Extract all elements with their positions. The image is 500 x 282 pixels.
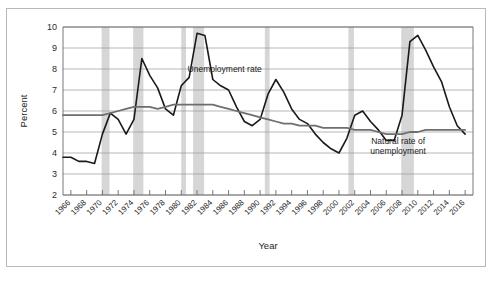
chart-annotations: Unemployment rateNatural rate ofunemploy…: [188, 64, 427, 156]
x-axis-title: Year: [258, 240, 277, 251]
x-tick-label: 1988: [227, 198, 246, 217]
x-tick-label: 1990: [243, 198, 262, 217]
x-tick-label: 2014: [432, 198, 451, 217]
x-tick-label: 2012: [416, 198, 435, 217]
figure-frame: 2345678910 19661968197019721974197619781…: [6, 8, 486, 267]
y-tick-label: 9: [52, 43, 57, 53]
x-tick-label: 2000: [321, 198, 340, 217]
x-tick-label: 2008: [385, 198, 404, 217]
y-tick-label: 3: [52, 169, 57, 179]
x-tick-label: 1970: [85, 198, 104, 217]
unemployment-rate-annotation: Unemployment rate: [188, 64, 262, 74]
x-tick-label: 1980: [164, 198, 183, 217]
unemployment-chart: 2345678910 19661968197019721974197619781…: [7, 9, 487, 268]
y-tick-label: 6: [52, 106, 57, 116]
x-tick-label: 2004: [353, 198, 372, 217]
x-tick-label: 1982: [180, 198, 199, 217]
x-tick-label: 1966: [53, 198, 72, 217]
y-axis-tick-labels: 2345678910: [47, 22, 57, 200]
x-tick-label: 1968: [69, 198, 88, 217]
x-tick-label: 1974: [116, 198, 135, 217]
y-tick-label: 2: [52, 190, 57, 200]
x-tick-label: 2010: [400, 198, 419, 217]
y-tick-label: 4: [52, 148, 57, 158]
x-tick-label: 2006: [369, 198, 388, 217]
y-axis-title: Percent: [18, 94, 29, 127]
chart-svg: 2345678910 19661968197019721974197619781…: [7, 9, 487, 268]
x-tick-label: 1984: [195, 198, 214, 217]
natural-rate-annotation-line2: unemployment: [370, 146, 426, 156]
natural-rate-annotation-line1: Natural rate of: [371, 136, 425, 146]
y-tick-label: 10: [47, 22, 57, 32]
x-tick-label: 1996: [290, 198, 309, 217]
x-axis-tick-labels: 1966196819701972197419761978198019821984…: [53, 198, 467, 217]
x-tick-label: 1994: [274, 198, 293, 217]
x-tick-label: 2002: [337, 198, 356, 217]
x-tick-label: 1986: [211, 198, 230, 217]
x-tick-label: 2016: [448, 198, 467, 217]
y-tick-label: 5: [52, 127, 57, 137]
x-tick-label: 1998: [306, 198, 325, 217]
y-tick-label: 8: [52, 64, 57, 74]
x-tick-label: 1976: [132, 198, 151, 217]
y-tick-label: 7: [52, 85, 57, 95]
x-tick-label: 1978: [148, 198, 167, 217]
x-tick-label: 1972: [101, 198, 120, 217]
x-tick-label: 1992: [258, 198, 277, 217]
